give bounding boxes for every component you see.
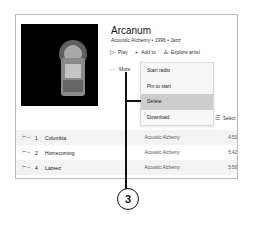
- menu-item-start-radio[interactable]: Start radio: [141, 63, 213, 79]
- track-list: ⊢⊣ 1 Columbia Acoustic Alchemy 4:50 ⊢⊣ 2…: [16, 130, 237, 175]
- select-list-icon: ☰: [215, 115, 220, 121]
- add-to-button[interactable]: + Add to: [135, 49, 156, 55]
- callout-line: [125, 72, 127, 189]
- plus-icon: +: [135, 49, 139, 55]
- play-button[interactable]: ▷ Play: [110, 49, 128, 55]
- play-icon: ▷: [110, 49, 115, 55]
- explore-artist-button[interactable]: ♙ Explore artist: [163, 49, 200, 55]
- track-row[interactable]: ⊢⊣ 2 Homecoming Acoustic Alchemy 5:42: [16, 145, 237, 160]
- album-subtitle: Acoustic Alchemy • 1996 • Jazz: [111, 37, 181, 43]
- person-icon: ♙: [163, 49, 168, 55]
- album-art-icon: [21, 24, 98, 106]
- menu-item-download[interactable]: Download: [141, 110, 213, 126]
- callout-number-badge: 3: [117, 188, 139, 210]
- track-row[interactable]: ⊢⊣ 1 Columbia Acoustic Alchemy 4:50: [16, 130, 237, 145]
- context-menu: Start radio Pin to start Delete Download: [140, 62, 214, 126]
- menu-item-delete[interactable]: Delete: [141, 94, 213, 110]
- drag-handle-icon: ⊢⊣: [16, 165, 31, 170]
- album-cover: [21, 24, 98, 106]
- callout-branch: [125, 100, 141, 102]
- select-button[interactable]: ☰ Select: [215, 115, 236, 121]
- drag-handle-icon: ⊢⊣: [16, 135, 31, 140]
- more-button[interactable]: ··· More: [110, 66, 130, 72]
- track-row[interactable]: ⊢⊣ 4 Lazeez Acoustic Alchemy 5:50: [16, 160, 237, 175]
- ellipsis-icon: ···: [110, 66, 116, 72]
- drag-handle-icon: ⊢⊣: [16, 150, 31, 155]
- menu-item-pin-to-start[interactable]: Pin to start: [141, 79, 213, 95]
- album-title: Arcanum: [111, 25, 151, 36]
- album-actions: ▷ Play + Add to ♙ Explore artist: [110, 49, 200, 55]
